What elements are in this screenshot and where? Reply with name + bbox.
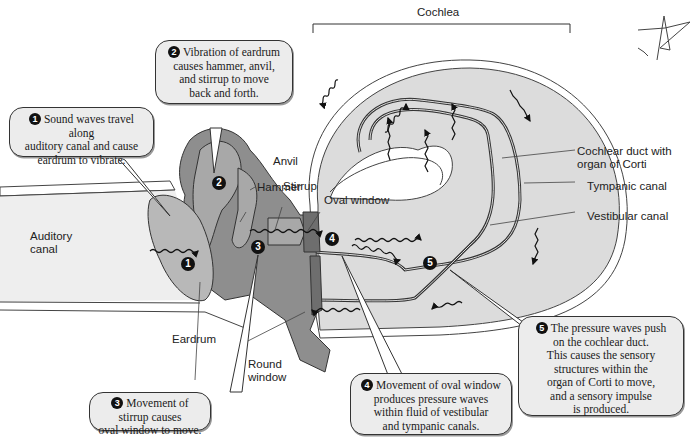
callout-step-1-line2: auditory canal and cause [18,140,145,154]
step-marker-1: 1 [181,257,195,271]
cochlea-title: Cochlea [417,6,459,19]
round-window-label-line2: window [248,371,286,384]
step-marker-4: 4 [325,232,339,246]
step-number-badge: 3 [111,397,123,409]
step-number-badge: 1 [29,113,41,125]
callout-step-2-line3: and stirrup to move [164,73,284,87]
cochlear-duct-label-line2: organ of Corti [577,158,672,171]
callout-step-5-line2: on the cochlear duct. [527,336,675,350]
step-number-badge: 2 [168,46,180,58]
callout-step-5-line1: 5The pressure waves push [527,322,675,336]
callout-step-4-line3: within fluid of vestibular [359,406,503,420]
stirrup-label: Stirrup [283,180,317,193]
anvil-label: Anvil [273,155,298,168]
callout-step-5-line7: is produced. [527,403,675,417]
callout-step-4-line4: and tympanic canals. [359,420,503,434]
round-window-label-line1: Round [248,358,286,371]
step-number-badge: 5 [536,322,548,334]
callout-step-5-line6: and a sensory impulse [527,390,675,404]
callout-step-2-line2: causes hammer, anvil, [164,60,284,74]
callout-step-5-line4: structures within the [527,363,675,377]
vestibular-canal-label: Vestibular canal [587,210,668,223]
callout-step-2: 2Vibration of eardrum causes hammer, anv… [155,40,293,104]
round-window-label: Round window [248,358,286,384]
callout-step-2-line1: 2Vibration of eardrum [164,46,284,60]
step-marker-3: 3 [251,240,265,254]
callout-step-3-line2: oval window to move. [96,424,204,438]
callout-step-4-line1: 4Movement of oval window [359,379,503,393]
callout-step-2-line4: back and forth. [164,87,284,101]
callout-step-1: 1Sound waves travel along auditory canal… [9,107,154,157]
callout-step-5-line5: organ of Corti to move, [527,376,675,390]
auditory-canal-label: Auditory canal [30,230,72,256]
tympanic-canal-label: Tympanic canal [587,180,667,193]
step-number-badge: 4 [361,379,373,391]
oval-window-label: Oval window [324,194,389,207]
callout-step-3-line1: 3Movement of stirrup causes [96,397,204,424]
cochlear-duct-label: Cochlear duct with organ of Corti [577,145,672,171]
callout-step-3: 3Movement of stirrup causes oval window … [89,392,211,431]
callout-step-5: 5The pressure waves push on the cochlear… [518,316,684,416]
cochlear-duct-label-line1: Cochlear duct with [577,145,672,158]
callout-step-1-line1: 1Sound waves travel along [18,113,145,140]
signature-scribble [638,16,690,60]
callout-step-4-line2: produces pressure waves [359,393,503,407]
auditory-canal-label-line2: canal [30,243,72,256]
callout-step-1-line3: eardrum to vibrate. [18,154,145,168]
callout-step-5-line3: This causes the sensory [527,349,675,363]
auditory-canal-label-line1: Auditory [30,230,72,243]
eardrum-label: Eardrum [172,333,216,346]
cochlea-bracket [313,24,570,33]
step-marker-5: 5 [423,256,437,270]
callout-step-4: 4Movement of oval window produces pressu… [350,373,512,435]
step-marker-2: 2 [212,176,226,190]
